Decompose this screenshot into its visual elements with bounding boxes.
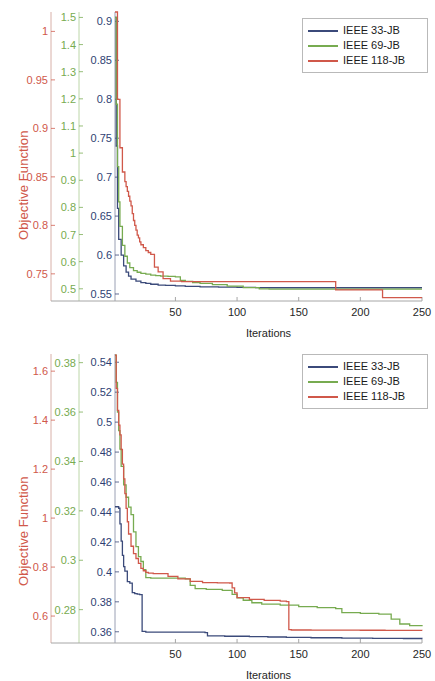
y-tick-label: 0.42 [91,536,112,548]
y-tick-label: 0.75 [91,132,112,144]
y-tick-label: 1.2 [61,93,76,105]
legend-swatch-ieee-33 [308,366,338,368]
y-tick-label: 1.5 [61,11,76,23]
y-tick-label: 0.5 [61,283,76,295]
x-tick-label: 150 [290,648,308,660]
y-tick-label: 0.4 [97,566,112,578]
y-tick-label: 1.6 [33,365,48,377]
y-tick-label: 0.36 [91,626,112,638]
x-tick-label: 200 [351,648,369,660]
legend-swatch-ieee-118 [308,60,338,62]
legend-swatch-ieee-69 [308,45,338,47]
y-tick-label: 0.9 [33,122,48,134]
y-tick-label: 1.2 [33,463,48,475]
x-tick-label: 250 [413,306,431,318]
legend-bottom: IEEE 33-JB IEEE 69-JB IEEE 118-JB [302,354,428,409]
legend-swatch-ieee-69 [308,381,338,383]
y-tick-label: 0.9 [61,174,76,186]
x-tick-label: 50 [169,306,181,318]
y-tick-label: 0.7 [61,229,76,241]
legend-item-ieee-69[interactable]: IEEE 69-JB [308,38,421,53]
y-tick-label: 0.6 [61,256,76,268]
x-tick-label: 200 [351,306,369,318]
y-tick-label: 0.95 [27,74,48,86]
y-tick-label: 0.8 [33,561,48,573]
legend-item-ieee-33[interactable]: IEEE 33-JB [308,359,421,374]
legend-label-ieee-69: IEEE 69-JB [343,38,400,53]
legend-label-ieee-69: IEEE 69-JB [343,374,400,389]
legend-item-ieee-33[interactable]: IEEE 33-JB [308,23,421,38]
y-tick-label: 1.1 [61,120,76,132]
y-axis-label-top: Objective Function [16,131,31,240]
legend-label-ieee-33: IEEE 33-JB [343,359,400,374]
y-tick-label: 0.5 [97,416,112,428]
x-tick-label: 100 [228,306,246,318]
y-axis-label-bottom: Objective Function [16,477,31,586]
y-tick-label: 1.3 [61,66,76,78]
x-tick-label: 50 [169,648,181,660]
y-tick-label: 0.85 [91,54,112,66]
y-tick-label: 0.34 [55,455,76,467]
y-tick-label: 0.6 [97,249,112,261]
x-axis-label-bottom: Iterations [115,669,422,681]
y-tick-label: 0.44 [91,506,112,518]
y-tick-label: 0.6 [33,610,48,622]
y-tick-label: 1 [42,25,48,37]
y-tick-label: 1 [70,147,76,159]
y-tick-label: 0.7 [97,171,112,183]
y-tick-label: 0.8 [33,219,48,231]
y-tick-label: 0.9 [97,15,112,27]
y-tick-label: 1 [42,512,48,524]
legend-item-ieee-118[interactable]: IEEE 118-JB [308,389,421,404]
legend-label-ieee-33: IEEE 33-JB [343,23,400,38]
legend-swatch-ieee-33 [308,30,338,32]
y-tick-label: 0.28 [55,604,76,616]
y-tick-label: 0.32 [55,505,76,517]
y-tick-label: 1.4 [61,39,76,51]
y-tick-label: 0.36 [55,406,76,418]
x-tick-label: 250 [413,648,431,660]
legend-top: IEEE 33-JB IEEE 69-JB IEEE 118-JB [302,18,428,73]
y-tick-label: 0.48 [91,446,112,458]
x-tick-label: 150 [290,306,308,318]
y-tick-label: 0.38 [55,357,76,369]
legend-label-ieee-118: IEEE 118-JB [343,389,405,404]
chart-bottom: 1.61.41.210.80.60.380.360.340.320.30.280… [0,336,435,672]
series-line-ieee-33-jb [115,507,422,639]
x-tick-label: 100 [228,648,246,660]
legend-item-ieee-69[interactable]: IEEE 69-JB [308,374,421,389]
chart-top: 10.950.90.850.80.751.51.41.31.21.110.90.… [0,0,435,330]
y-tick-label: 0.8 [97,93,112,105]
y-tick-label: 0.3 [61,554,76,566]
legend-label-ieee-118: IEEE 118-JB [343,53,405,68]
y-tick-label: 0.55 [91,288,112,300]
y-tick-label: 0.38 [91,596,112,608]
y-tick-label: 1.4 [33,414,48,426]
y-tick-label: 0.75 [27,268,48,280]
y-tick-label: 0.8 [61,201,76,213]
legend-swatch-ieee-118 [308,396,338,398]
y-tick-label: 0.65 [91,210,112,222]
legend-item-ieee-118[interactable]: IEEE 118-JB [308,53,421,68]
y-tick-label: 0.46 [91,476,112,488]
y-tick-label: 0.54 [91,356,112,368]
y-tick-label: 0.52 [91,386,112,398]
